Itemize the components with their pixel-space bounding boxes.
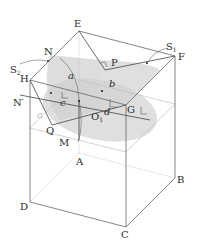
label-vertex-E: E (74, 18, 81, 29)
label-segment-b: b (109, 78, 115, 89)
label-surface-S1: S1 (166, 41, 177, 53)
cube-section-diagram: E F G H A B C D N N′ P Q M O1 S1 S2 a a … (0, 0, 199, 248)
label-segment-a-faint: a (37, 109, 43, 120)
label-vertex-H: H (20, 73, 29, 84)
shaded-disk (37, 55, 163, 151)
label-point-M: M (59, 137, 69, 148)
label-vertex-F: F (178, 51, 185, 62)
label-surface-S2: S2 (10, 64, 21, 76)
label-vertex-A: A (75, 156, 84, 167)
label-point-Q: Q (46, 125, 54, 136)
label-segment-c: c (60, 97, 66, 108)
label-point-P: P (111, 57, 118, 68)
label-segment-d: d (104, 106, 110, 117)
label-segment-a: a (68, 70, 74, 81)
label-point-N-prime: N′ (13, 97, 25, 108)
label-vertex-G: G (127, 104, 135, 115)
label-vertex-B: B (177, 174, 184, 185)
label-point-N: N (44, 46, 53, 57)
label-vertex-C: C (121, 229, 129, 240)
label-vertex-D: D (20, 201, 28, 212)
